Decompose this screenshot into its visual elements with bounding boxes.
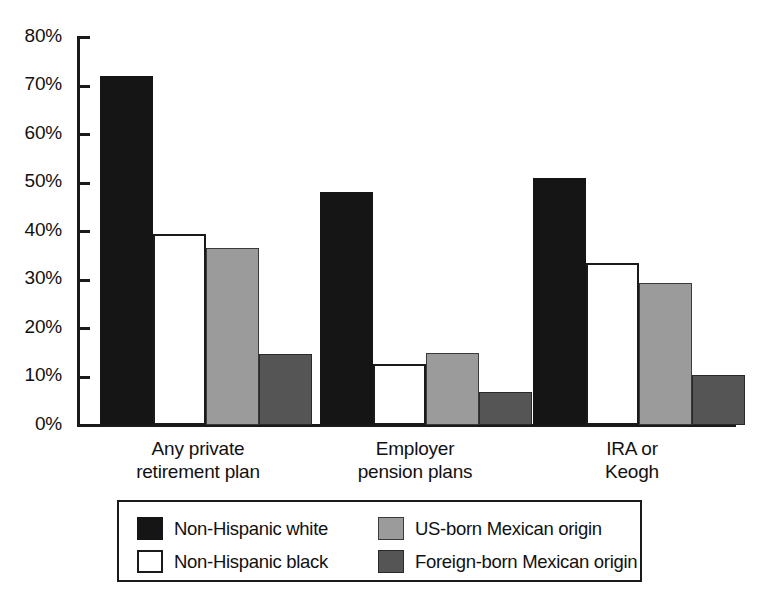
y-tick-label-40: 40% [2,219,62,241]
category-label-1-line2: retirement plan [108,460,288,483]
legend-swatch-foreign-born-mexican-origin-icon [378,550,404,573]
bar-g3-non-hispanic-white [533,178,586,425]
bar-g2-non-hispanic-black [373,364,426,425]
category-label-1-line1: Any private [108,437,288,460]
category-label-1: Any private retirement plan [108,437,288,483]
y-tick-label-60: 60% [2,122,62,144]
bar-g1-non-hispanic-white [100,76,153,425]
category-label-3: IRA or Keogh [542,437,722,483]
bar-g1-foreign-born-mexican-origin [259,354,312,425]
legend-label-us-born-mexican-origin: US-born Mexican origin [415,518,602,540]
legend-label-non-hispanic-white: Non-Hispanic white [174,518,328,540]
bar-g3-foreign-born-mexican-origin [692,375,745,425]
category-label-3-line2: Keogh [542,460,722,483]
plot-area [77,37,735,425]
bar-g1-us-born-mexican-origin [206,248,259,426]
bar-g2-non-hispanic-white [320,192,373,425]
legend-row-1: Non-Hispanic white US-born Mexican origi… [119,512,640,545]
y-tick-label-30: 30% [2,267,62,289]
legend-swatch-non-hispanic-white-icon [137,517,163,540]
legend-label-foreign-born-mexican-origin: Foreign-born Mexican origin [415,551,637,573]
category-label-2: Employer pension plans [325,437,505,483]
legend-item-us-born-mexican-origin: US-born Mexican origin [374,517,602,540]
chart-legend: Non-Hispanic white US-born Mexican origi… [117,500,642,582]
legend-swatch-non-hispanic-black-icon [137,550,163,573]
category-label-3-line1: IRA or [542,437,722,460]
y-tick-label-50: 50% [2,170,62,192]
bar-g1-non-hispanic-black [153,234,206,425]
legend-label-non-hispanic-black: Non-Hispanic black [174,551,328,573]
y-tick-label-80: 80% [2,25,62,47]
legend-row-2: Non-Hispanic black Foreign-born Mexican … [119,545,640,578]
category-label-2-line2: pension plans [325,460,505,483]
bar-chart: 80% 70% 60% 50% 40% 30% 20% 10% 0% [0,0,759,605]
legend-item-non-hispanic-black: Non-Hispanic black [119,550,374,573]
legend-swatch-us-born-mexican-origin-icon [378,517,404,540]
legend-item-non-hispanic-white: Non-Hispanic white [119,517,374,540]
category-label-2-line1: Employer [325,437,505,460]
bar-g3-us-born-mexican-origin [639,283,692,425]
y-tick-label-20: 20% [2,316,62,338]
y-tick-label-10: 10% [2,364,62,386]
bar-g2-foreign-born-mexican-origin [479,392,532,425]
bar-g3-non-hispanic-black [586,263,639,426]
y-tick-label-70: 70% [2,73,62,95]
legend-item-foreign-born-mexican-origin: Foreign-born Mexican origin [374,550,637,573]
y-tick-label-0: 0% [2,413,62,435]
bar-g2-us-born-mexican-origin [426,353,479,425]
